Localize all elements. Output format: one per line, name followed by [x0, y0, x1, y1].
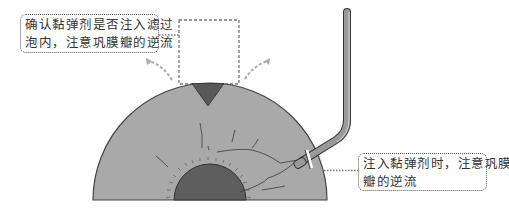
- callout-right-line-1: 注入黏弹剂时，注意巩膜: [363, 155, 482, 173]
- callout-left-line-2: 泡内，注意巩膜瓣的逆流: [25, 34, 154, 52]
- flow-arrow-right-icon: [245, 61, 268, 79]
- filtering-bleb-outline: [179, 20, 239, 84]
- callout-confirm-injection: 确认黏弹剂是否注入滤过 泡内，注意巩膜瓣的逆流: [20, 14, 159, 53]
- callout-right-line-2: 瓣的逆流: [363, 173, 482, 191]
- arrowhead-left-icon: [146, 58, 152, 65]
- arrowhead-right-icon: [265, 58, 270, 65]
- callout-left-line-1: 确认黏弹剂是否注入滤过: [25, 16, 154, 34]
- flow-arrow-left-icon: [148, 61, 172, 80]
- callout-injection-caution: 注入黏弹剂时，注意巩膜 瓣的逆流: [358, 153, 487, 191]
